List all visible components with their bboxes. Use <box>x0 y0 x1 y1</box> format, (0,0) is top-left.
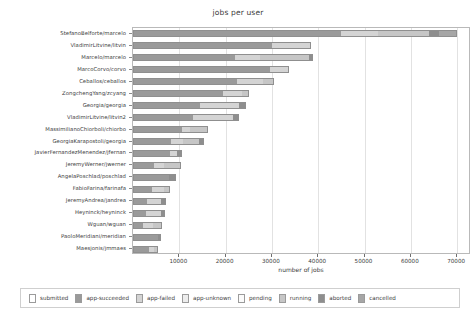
bar[interactable] <box>133 114 239 121</box>
bar[interactable] <box>133 246 158 253</box>
bar[interactable] <box>133 138 204 145</box>
bar[interactable] <box>133 210 165 217</box>
bar-segment[interactable] <box>133 66 270 73</box>
bar-segment[interactable] <box>133 30 341 37</box>
bar-segment[interactable] <box>133 42 272 49</box>
bar-segment[interactable] <box>133 222 143 229</box>
legend-label: app-succeeded <box>86 295 129 301</box>
legend-swatch <box>29 294 36 303</box>
bar-segment[interactable] <box>200 102 239 109</box>
bar-segment[interactable] <box>133 186 152 193</box>
bar-segment[interactable] <box>183 138 199 145</box>
bar-segment[interactable] <box>133 126 182 133</box>
y-axis-tick-label: JavierFernandezMenendez/jfernan <box>35 149 127 155</box>
bar-segment[interactable] <box>171 138 183 145</box>
bar-segment[interactable] <box>133 234 158 241</box>
bar-segment[interactable] <box>133 162 154 169</box>
bar-segment[interactable] <box>133 198 147 205</box>
bar[interactable] <box>133 162 181 169</box>
bar-edge <box>180 162 181 169</box>
bar-segment[interactable] <box>223 90 242 97</box>
bar-segment[interactable] <box>341 30 378 37</box>
y-axis-tick-mark <box>129 45 132 46</box>
x-axis-tick-mark <box>456 254 457 257</box>
bar-segment[interactable] <box>146 210 161 217</box>
bar-segment[interactable] <box>439 30 458 37</box>
bar-segment[interactable] <box>143 222 154 229</box>
bar[interactable] <box>133 222 162 229</box>
gridline <box>226 28 227 253</box>
bar-segment[interactable] <box>133 78 237 85</box>
bar[interactable] <box>133 66 289 73</box>
bar-segment[interactable] <box>170 150 176 157</box>
y-axis-tick-mark <box>129 164 132 165</box>
legend-swatch <box>75 294 82 303</box>
bar-segment[interactable] <box>133 210 146 217</box>
x-axis-tick-label: 10000 <box>169 258 187 264</box>
bar-edge <box>181 150 182 157</box>
bar-segment[interactable] <box>133 114 193 121</box>
x-axis-tick-label: 50000 <box>355 258 373 264</box>
chart-title: jobs per user <box>0 8 476 17</box>
bar[interactable] <box>133 174 176 181</box>
bar-edge <box>165 198 166 205</box>
legend-item[interactable]: app-succeeded <box>75 294 129 303</box>
bar-segment[interactable] <box>152 186 164 193</box>
bar[interactable] <box>133 198 166 205</box>
bar-segment[interactable] <box>133 102 200 109</box>
bar[interactable] <box>133 78 274 85</box>
bar-edge <box>245 102 246 109</box>
x-axis-tick-mark <box>178 254 179 257</box>
bar-segment[interactable] <box>272 42 310 49</box>
bar-segment[interactable] <box>260 54 309 61</box>
bar[interactable] <box>133 186 170 193</box>
bar-segment[interactable] <box>164 162 180 169</box>
bar-segment[interactable] <box>147 198 161 205</box>
bar-segment[interactable] <box>182 126 190 133</box>
bar-segment[interactable] <box>154 162 165 169</box>
y-axis-tick-mark <box>129 212 132 213</box>
legend-item[interactable]: aborted <box>318 294 351 303</box>
legend-item[interactable]: app-unknown <box>182 294 231 303</box>
bar-segment[interactable] <box>133 246 149 253</box>
bar-segment[interactable] <box>190 126 208 133</box>
bar[interactable] <box>133 54 313 61</box>
legend-label: aborted <box>329 295 351 301</box>
bar[interactable] <box>133 126 208 133</box>
y-axis-tick-label: VladimirLitvine/litvin <box>70 42 126 48</box>
bar[interactable] <box>133 150 182 157</box>
bar-segment[interactable] <box>270 66 290 73</box>
x-axis-tick-label: 30000 <box>262 258 280 264</box>
bar-segment[interactable] <box>133 150 170 157</box>
y-axis-tick-label: Georgia/georgia <box>83 102 126 108</box>
bar-segment[interactable] <box>429 30 438 37</box>
bar-segment[interactable] <box>193 114 232 121</box>
y-axis-tick-label: GeorgiaKarapostoli/georgia <box>52 138 126 144</box>
bar-edge <box>157 246 158 253</box>
bar[interactable] <box>133 90 249 97</box>
bar[interactable] <box>133 102 246 109</box>
bar-segment[interactable] <box>237 78 262 85</box>
legend-item[interactable]: running <box>279 294 312 303</box>
bar[interactable] <box>133 42 311 49</box>
legend-item[interactable]: pending <box>238 294 272 303</box>
legend-label: pending <box>249 295 272 301</box>
bar-edge <box>310 42 311 49</box>
bar-edge <box>160 234 161 241</box>
bar-edge <box>133 234 134 241</box>
bar-segment[interactable] <box>133 138 171 145</box>
bar-segment[interactable] <box>133 54 235 61</box>
bar[interactable] <box>133 30 457 37</box>
bar-segment[interactable] <box>235 54 260 61</box>
bar-segment[interactable] <box>133 174 169 181</box>
bar-edge <box>133 90 134 97</box>
legend-item[interactable]: cancelled <box>358 294 396 303</box>
bar[interactable] <box>133 234 161 241</box>
bar-segment[interactable] <box>133 90 223 97</box>
legend-item[interactable]: app-failed <box>136 294 175 303</box>
legend-item[interactable]: submitted <box>29 294 68 303</box>
gridline <box>365 28 366 253</box>
y-axis-tick-mark <box>129 69 132 70</box>
y-axis-tick-mark <box>129 33 132 34</box>
bar-segment[interactable] <box>378 30 429 37</box>
